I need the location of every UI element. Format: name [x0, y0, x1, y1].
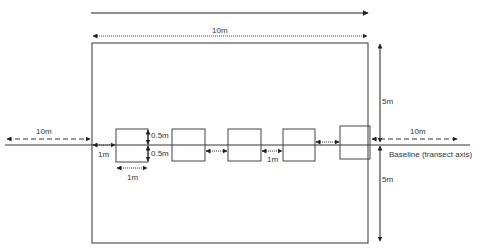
height-dimension-top: 5m: [380, 44, 393, 142]
right-extension-dimension: 10m: [372, 127, 457, 139]
width-label: 10m: [212, 26, 228, 35]
svg-text:1m: 1m: [98, 150, 109, 159]
svg-text:0.5m: 0.5m: [151, 149, 169, 158]
svg-text:1m: 1m: [127, 173, 138, 182]
svg-text:5m: 5m: [382, 175, 393, 184]
baseline-label: Baseline (transect axis): [389, 150, 472, 159]
gap-dimension-3-4: 1m: [262, 151, 282, 164]
width-dimension: 10m: [93, 26, 367, 36]
quadrat-width-dimension: 1m: [117, 168, 147, 182]
quadrat-half-height-bottom: 0.5m: [148, 146, 169, 161]
plot-frame: [92, 43, 368, 243]
svg-text:10m: 10m: [36, 127, 52, 136]
svg-text:0.5m: 0.5m: [151, 131, 169, 140]
svg-text:10m: 10m: [410, 127, 426, 136]
height-dimension-bottom: 5m: [380, 146, 393, 241]
quadrat-5: [340, 126, 370, 159]
svg-text:1m: 1m: [267, 155, 278, 164]
left-extension-dimension: 10m: [7, 127, 90, 139]
transect-diagram: 10m Baseline (transect axis) 10m 10m 5m …: [0, 0, 479, 249]
quadrat-half-height-top: 0.5m: [148, 130, 169, 144]
svg-text:5m: 5m: [382, 97, 393, 106]
start-offset-dimension: 1m: [93, 145, 115, 159]
